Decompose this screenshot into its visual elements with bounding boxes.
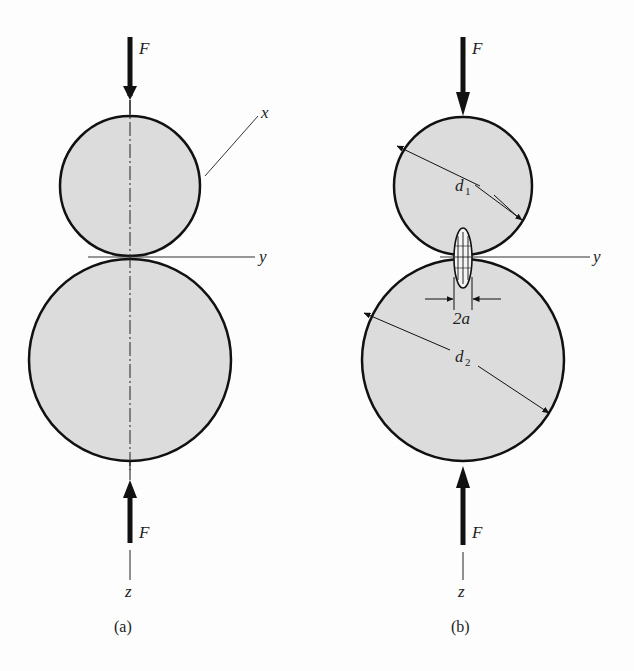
svg-text:2: 2 xyxy=(465,356,471,368)
label-force-top: F xyxy=(471,39,483,58)
label-y: y xyxy=(257,247,267,266)
panel-b: 2a d 1 d 2 F y F z (b) xyxy=(362,37,601,636)
label-y: y xyxy=(591,247,601,266)
label-force-top: F xyxy=(138,39,150,58)
arrowhead-bottom xyxy=(456,466,470,488)
svg-text:d: d xyxy=(455,176,464,195)
label-x: x xyxy=(260,103,269,122)
caption-b: (b) xyxy=(451,618,470,636)
label-force-bottom: F xyxy=(471,523,483,542)
label-2a: 2a xyxy=(453,309,470,328)
svg-text:d: d xyxy=(455,347,464,366)
svg-text:1: 1 xyxy=(465,185,471,197)
arrowhead-top xyxy=(456,92,470,116)
x-axis xyxy=(205,116,258,176)
arrowhead-top xyxy=(123,86,137,100)
label-z: z xyxy=(457,582,465,601)
label-z: z xyxy=(124,582,132,601)
caption-a: (a) xyxy=(114,618,132,636)
contact-diagram: F x y F z (a) 2a d xyxy=(0,0,634,671)
label-force-bottom: F xyxy=(138,523,150,542)
contact-pressure-ellipse xyxy=(454,228,472,288)
panel-a: F x y F z (a) xyxy=(29,37,269,636)
